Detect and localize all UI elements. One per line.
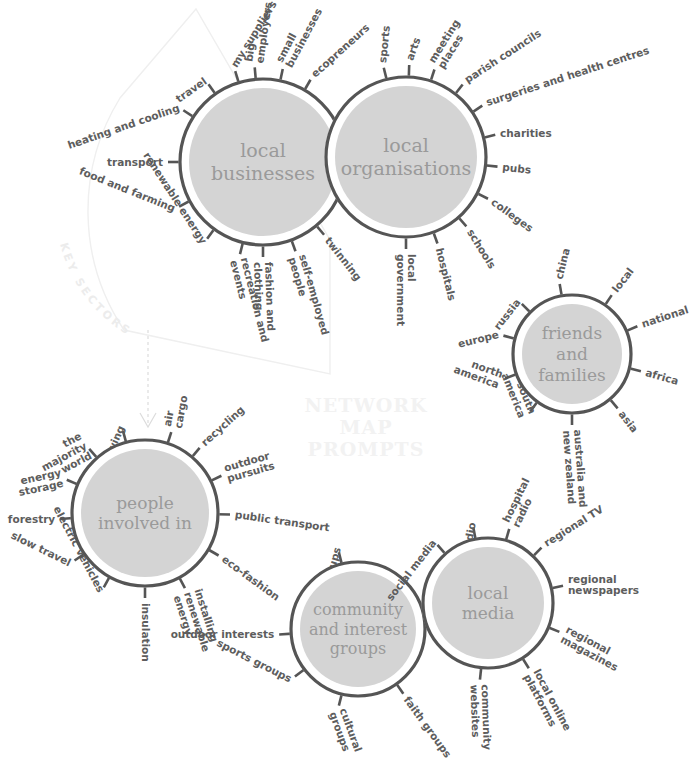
spoke-label[interactable]: sports — [376, 25, 392, 63]
network-map-diagram: KEY SECTORS NETWORKMAPPROMPTS travelmy s… — [0, 0, 693, 779]
spoke-label[interactable]: regionalnewspapers — [568, 573, 639, 596]
spoke-label[interactable]: outdoorpursuits — [223, 449, 276, 485]
spoke-label-line: pubs — [502, 161, 532, 176]
watermark-line: MAP — [339, 416, 392, 438]
spoke-label-line: heating and cooling — [66, 101, 181, 151]
spoke-label-line: regional TV — [542, 502, 607, 549]
spoke-label[interactable]: travel — [173, 75, 208, 105]
spoke-label-line: schools — [465, 227, 499, 271]
spoke-label-line: sports groups — [215, 636, 294, 684]
spoke-label[interactable]: asia — [617, 408, 641, 434]
spoke-label[interactable]: regional TV — [542, 502, 607, 549]
spoke-label[interactable]: national — [640, 303, 690, 329]
spoke-label[interactable]: australia andnew zealand — [561, 429, 589, 509]
spoke-label[interactable]: communitywebsites — [468, 684, 493, 751]
spoke-label[interactable]: self-employedpeople — [287, 253, 332, 340]
spoke-label-line: europe — [457, 328, 500, 350]
spoke-label-line: public transport — [234, 508, 330, 533]
spoke-label[interactable]: northamerica — [452, 353, 504, 391]
watermark-line: NETWORK — [304, 394, 428, 416]
spoke-label-line: arts — [403, 36, 422, 62]
spoke-label-line: africa — [644, 366, 680, 387]
spoke-label[interactable]: hospitals — [434, 247, 459, 302]
spoke-label-line: insulation — [140, 603, 152, 662]
key-sectors-label: KEY SECTORS — [57, 241, 134, 338]
node-title-line: local — [383, 134, 429, 156]
spoke-label-line: forestry — [8, 513, 56, 525]
watermark: NETWORKMAPPROMPTS — [304, 394, 428, 460]
spoke-label-line: eco-fashion — [220, 553, 283, 603]
node-cluster-friends-and-families: chinalocalnationalafricaasiaaustralia an… — [452, 247, 689, 509]
spoke-label-line: hospitals — [434, 247, 459, 302]
spoke-label-line: cargo — [172, 395, 190, 430]
spoke-label-line: asia — [617, 408, 641, 434]
spoke-label[interactable]: schools — [465, 227, 499, 271]
spoke-label[interactable]: africa — [644, 366, 680, 387]
node-title-line: friends — [542, 323, 602, 343]
spoke-label[interactable]: local — [609, 265, 636, 294]
spoke-label[interactable]: arts — [403, 36, 422, 62]
spoke-label[interactable]: aircargo — [161, 393, 189, 430]
spoke-label-line: recycling — [199, 403, 247, 448]
spoke-label[interactable]: eco-fashion — [220, 553, 283, 603]
spoke-label-line: newspapers — [568, 584, 639, 596]
spoke-label-line: charities — [500, 127, 552, 139]
node-title-line: involved in — [98, 513, 192, 533]
spoke-label-line: travel — [173, 75, 208, 105]
watermark-line: PROMPTS — [308, 438, 425, 460]
spoke-label-line: government — [395, 254, 407, 326]
spoke-label[interactable]: parish councils — [462, 27, 543, 85]
spoke-label[interactable]: smallbusinesses — [273, 1, 324, 69]
spoke-label[interactable]: ecopreneurs — [309, 21, 372, 79]
spoke-label[interactable]: sports groups — [215, 636, 294, 684]
spoke-label-line: local — [609, 265, 636, 294]
spoke-label[interactable]: faith groups — [402, 694, 454, 760]
spoke-label[interactable]: public transport — [234, 508, 330, 533]
spoke-label[interactable]: pubs — [502, 161, 532, 176]
node-title-line: local — [240, 139, 286, 161]
spoke-label[interactable]: colleges — [489, 196, 535, 234]
spoke-label-line: sports — [376, 25, 392, 63]
node-cluster-layer: travelmy suppliersbigemployerssmallbusin… — [8, 0, 690, 760]
node-title-line: organisations — [341, 157, 472, 179]
node-cluster-local-businesses: travelmy suppliersbigemployerssmallbusin… — [66, 0, 372, 346]
spoke-label[interactable]: culturalgroups — [327, 706, 364, 757]
spoke-label-line: national — [640, 303, 690, 329]
node-title-line: community — [313, 600, 403, 619]
spoke-label-line: china — [552, 247, 571, 281]
spoke-label-line: twinning — [323, 235, 364, 283]
spoke-label[interactable]: meetingplaces — [426, 17, 471, 71]
spoke-label[interactable]: forestry — [8, 513, 56, 525]
node-title-line: families — [538, 365, 606, 385]
spoke-label[interactable]: regionalmagazines — [559, 623, 626, 673]
spoke-label-line: websites — [468, 685, 482, 738]
spoke-label[interactable]: heating and cooling — [66, 101, 181, 151]
spoke-label[interactable]: twinning — [323, 235, 364, 283]
node-title-line: businesses — [211, 162, 315, 184]
node-cluster-local-organisations: sportsartsmeetingplacesparish councilssu… — [325, 17, 651, 326]
node-title: localmedia — [462, 583, 515, 624]
spoke-label[interactable]: slow travel — [9, 529, 73, 568]
spoke-label-line: russia — [491, 296, 523, 332]
spoke-label[interactable]: europe — [457, 328, 500, 350]
node-title-line: local — [468, 583, 509, 603]
node-title-line: media — [462, 603, 515, 623]
node-title-line: and — [556, 344, 588, 364]
diagram-canvas: KEY SECTORS NETWORKMAPPROMPTS travelmy s… — [0, 0, 693, 779]
spoke-label[interactable]: insulation — [140, 603, 152, 662]
spoke-label-line: parish councils — [462, 27, 543, 85]
spoke-label-line: colleges — [489, 196, 535, 234]
spoke-label-line: faith groups — [402, 694, 454, 760]
spoke-label[interactable]: charities — [500, 127, 552, 139]
spoke-label[interactable]: energystorage — [15, 466, 64, 498]
spoke-label[interactable]: china — [552, 247, 571, 281]
spoke-label[interactable]: hospitalradio — [500, 476, 542, 529]
spoke-label-line: ecopreneurs — [309, 21, 372, 79]
spoke-label[interactable]: russia — [491, 296, 523, 332]
spoke-label[interactable]: recycling — [199, 403, 247, 448]
node-title-line: people — [116, 493, 174, 513]
node-title-line: groups — [330, 639, 386, 658]
spoke-label-line: clothing — [252, 262, 266, 311]
spoke-label[interactable]: localgovernment — [395, 254, 418, 326]
spoke-label[interactable]: local onlineplatforms — [522, 667, 574, 738]
